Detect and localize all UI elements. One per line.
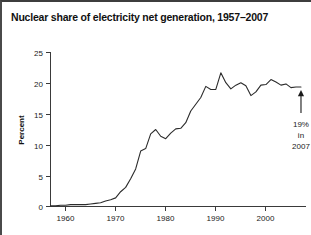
- y-tick-label-25: 25: [34, 49, 43, 58]
- line-chart-svg: 25 20 15 10 5 0 Percent 1960 1970 1980 1…: [2, 30, 311, 235]
- y-tick-label-20: 20: [34, 80, 43, 89]
- y-tick-label-5: 5: [39, 173, 44, 182]
- annotation-preposition: in: [298, 131, 304, 140]
- x-tick-label-1980: 1980: [157, 214, 175, 223]
- y-tick-label-10: 10: [34, 142, 43, 151]
- x-tick-label-1960: 1960: [57, 214, 75, 223]
- x-tick-label-1970: 1970: [107, 214, 125, 223]
- annotation-value: 19%: [293, 120, 309, 129]
- y-tick-label-15: 15: [34, 111, 43, 120]
- plot-area: 25 20 15 10 5 0 Percent 1960 1970 1980 1…: [2, 30, 311, 235]
- y-axis-ticks: [46, 53, 51, 207]
- chart-figure: Nuclear share of electricity net generat…: [0, 0, 311, 235]
- annotation-year: 2007: [292, 142, 310, 151]
- page-title: Nuclear share of electricity net generat…: [11, 11, 268, 23]
- x-tick-label-2000: 2000: [257, 214, 275, 223]
- annotation-group: 19% in 2007: [292, 90, 310, 151]
- x-tick-label-1990: 1990: [207, 214, 225, 223]
- y-tick-label-0: 0: [39, 203, 44, 212]
- y-axis-title: Percent: [17, 115, 26, 145]
- data-series-line: [51, 73, 301, 206]
- x-axis-ticks: [66, 207, 266, 212]
- up-arrow-head-icon: [298, 90, 304, 96]
